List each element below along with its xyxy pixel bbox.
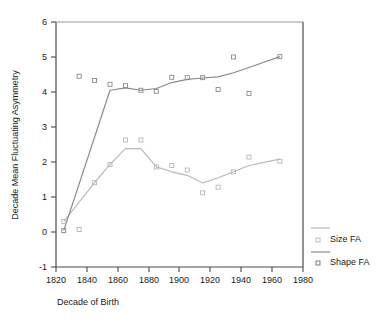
- x-ticklabel-1860: 1860: [108, 275, 128, 285]
- y-ticklabel-1: 1: [42, 192, 47, 202]
- fluctuating-asymmetry-line-chart: 6 5 4 3 2 1 0 -1 1820 1840 1860 1880 190…: [0, 0, 391, 318]
- x-ticklabel-1900: 1900: [169, 275, 189, 285]
- x-ticklabel-1940: 1940: [231, 275, 251, 285]
- legend-label-shape-fa: Shape FA: [330, 257, 370, 267]
- y-ticklabel-3: 3: [42, 122, 47, 132]
- legend-label-size-fa: Size FA: [330, 234, 361, 244]
- y-ticklabel-6: 6: [42, 17, 47, 27]
- x-ticklabel-1920: 1920: [200, 275, 220, 285]
- y-axis-title: Decade Mean Fluctuating Asymmetry: [10, 70, 20, 220]
- y-ticklabel-neg1: -1: [39, 262, 47, 272]
- y-ticklabel-2: 2: [42, 157, 47, 167]
- chart-background: [0, 0, 391, 318]
- y-ticklabel-4: 4: [42, 87, 47, 97]
- x-ticklabel-1960: 1960: [262, 275, 282, 285]
- x-ticklabel-1880: 1880: [139, 275, 159, 285]
- x-axis-tick-labels: 1820 1840 1860 1880 1900 1920 1940 1960 …: [46, 275, 313, 285]
- y-ticklabel-0: 0: [42, 227, 47, 237]
- y-ticklabel-5: 5: [42, 52, 47, 62]
- x-ticklabel-1840: 1840: [77, 275, 97, 285]
- x-ticklabel-1820: 1820: [46, 275, 66, 285]
- x-ticklabel-1980: 1980: [293, 275, 313, 285]
- x-axis-title: Decade of Birth: [57, 297, 119, 307]
